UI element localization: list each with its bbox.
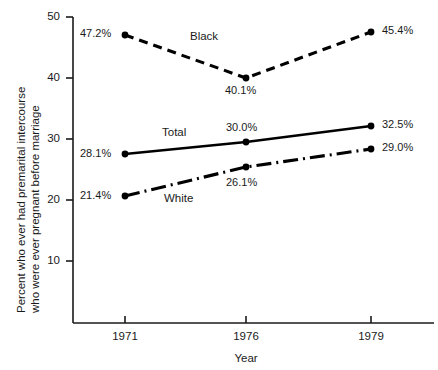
- axis-lines: [73, 17, 434, 323]
- y-tick-label-50: 50: [36, 11, 60, 22]
- value-label-black-1976: 40.1%: [225, 85, 256, 96]
- y-axis-title-line2: who were ever pregnant before marriage: [30, 105, 41, 313]
- series-white-point-1971: [122, 193, 129, 200]
- series-total-point-1979: [368, 123, 375, 130]
- y-axis-title-line1: Percent who ever had premarital intercou…: [16, 87, 27, 313]
- value-label-total-1976: 30.0%: [226, 122, 257, 133]
- series-black-point-1976: [243, 75, 250, 82]
- x-axis-ticks: [125, 316, 371, 323]
- series-total-point-1971: [122, 151, 129, 158]
- series-label-total: Total: [162, 127, 186, 138]
- y-axis-ticks: [66, 17, 73, 261]
- series-white-line: [125, 149, 371, 196]
- value-label-white-1979: 29.0%: [382, 142, 413, 153]
- x-tick-label-1976: 1976: [223, 331, 269, 342]
- series-total-point-1976: [243, 139, 250, 146]
- series-black: [122, 29, 375, 82]
- value-label-white-1971: 21.4%: [80, 190, 111, 201]
- plot-area: [0, 0, 438, 370]
- value-label-white-1976: 26.1%: [226, 177, 257, 188]
- series-white-point-1976: [243, 164, 250, 171]
- chart-figure: 50 40 30 20 10 1971 1976 1979 Year Perce…: [0, 0, 438, 370]
- value-label-total-1971: 28.1%: [80, 148, 111, 159]
- series-white: [122, 146, 375, 200]
- series-black-line: [125, 32, 371, 78]
- series-label-black: Black: [190, 31, 218, 42]
- x-tick-label-1979: 1979: [348, 331, 394, 342]
- series-white-point-1979: [368, 146, 375, 153]
- x-tick-label-1971: 1971: [102, 331, 148, 342]
- value-label-black-1971: 47.2%: [80, 28, 111, 39]
- series-label-white: White: [164, 193, 193, 204]
- x-axis-title: Year: [216, 353, 276, 364]
- series-black-point-1979: [368, 29, 375, 36]
- series-black-point-1971: [122, 32, 129, 39]
- value-label-black-1979: 45.4%: [382, 25, 413, 36]
- y-tick-label-40: 40: [36, 72, 60, 83]
- value-label-total-1979: 32.5%: [382, 119, 413, 130]
